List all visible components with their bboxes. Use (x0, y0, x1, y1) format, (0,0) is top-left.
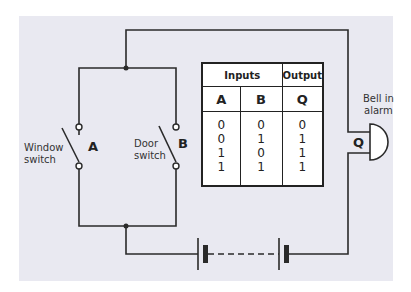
col-a-values: 00 11 (203, 112, 241, 186)
battery-cell-1 (203, 245, 208, 263)
switch-a-bottom-contact (76, 163, 82, 169)
col-a-header: A (203, 87, 241, 112)
col-b-header: B (240, 87, 282, 112)
bell-label: Bell in alarm (363, 93, 394, 117)
battery-feed-wire (126, 226, 198, 254)
bell-q-letter: Q (353, 135, 364, 150)
loop-top-wire (79, 68, 176, 130)
switch-b-bottom-contact (173, 163, 179, 169)
switch-a-blade (62, 128, 79, 162)
col-q-header: Q (282, 87, 322, 112)
switch-a-top-contact (76, 124, 82, 130)
truth-table: Inputs Output A B Q 00 11 01 01 01 11 (201, 62, 324, 187)
col-b-values: 01 01 (240, 112, 282, 186)
window-switch-label: Window switch (24, 142, 63, 166)
loop-bottom-wire (79, 166, 176, 226)
battery-cell-2 (284, 245, 289, 263)
junction-top (124, 66, 129, 71)
switch-a-letter: A (88, 139, 98, 154)
bell-icon (370, 124, 388, 160)
col-q-values: 01 11 (282, 112, 322, 186)
inputs-header: Inputs (203, 64, 283, 87)
door-switch-label: Door switch (134, 138, 166, 162)
output-header: Output (282, 64, 322, 87)
junction-bottom (124, 224, 129, 229)
switch-b-letter: B (174, 136, 184, 151)
switch-b-top-contact (173, 124, 179, 130)
